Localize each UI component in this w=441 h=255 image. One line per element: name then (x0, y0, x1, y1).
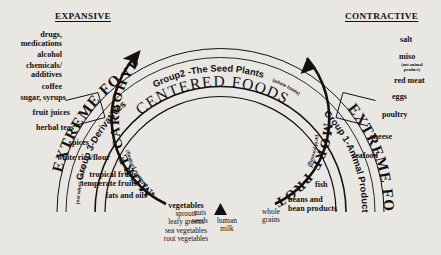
food-item-beans-bean-products: beans andbean products (288, 196, 337, 213)
food-item-sugar-syrups: sugar, syrups (0, 94, 66, 103)
header-expansive: EXPANSIVE (55, 11, 111, 21)
food-item-coffee: coffee (0, 83, 62, 92)
food-item-poultry: poultry (382, 111, 408, 120)
food-item-cheese: cheese (370, 133, 392, 142)
food-item-tropical-temperate-fruits: tropical fruitstemperate fruits (0, 171, 137, 188)
arrow-right-head (301, 58, 317, 74)
header-contractive: CONTRACTIVE (345, 11, 418, 21)
food-item-chemicals-additives: chemicals/additives (0, 62, 62, 79)
food-item-eggs: eggs (392, 93, 407, 102)
food-item-fish: fish (315, 181, 328, 190)
food-item-drugs-medications: drugs,medications (0, 31, 62, 48)
food-item-fats-and-oils: fats and oils** (0, 192, 155, 201)
food-item-red-meat: red meat (394, 77, 425, 86)
food-item-alcohol: alcohol (0, 51, 62, 60)
food-item-white-rice-flour: white rice/flour (0, 154, 110, 163)
food-item-whole-grains: whole grains (250, 208, 292, 224)
diagram-canvas: EXTREME FOODS EXTREME FOODS Group 3-Deri… (0, 0, 441, 255)
food-item-human-milk: human milk (204, 217, 250, 233)
food-item-miso-note: (not animalproduct) (392, 63, 432, 72)
food-item-salt: salt (400, 36, 412, 45)
food-item-miso: miso (399, 53, 415, 62)
food-item-seafood: seafood (352, 152, 378, 161)
food-item-spices: spices (0, 139, 89, 148)
food-item-herbal-teas: herbal teas* (0, 124, 78, 133)
food-item-fruit-juices: fruit juices (0, 109, 70, 118)
